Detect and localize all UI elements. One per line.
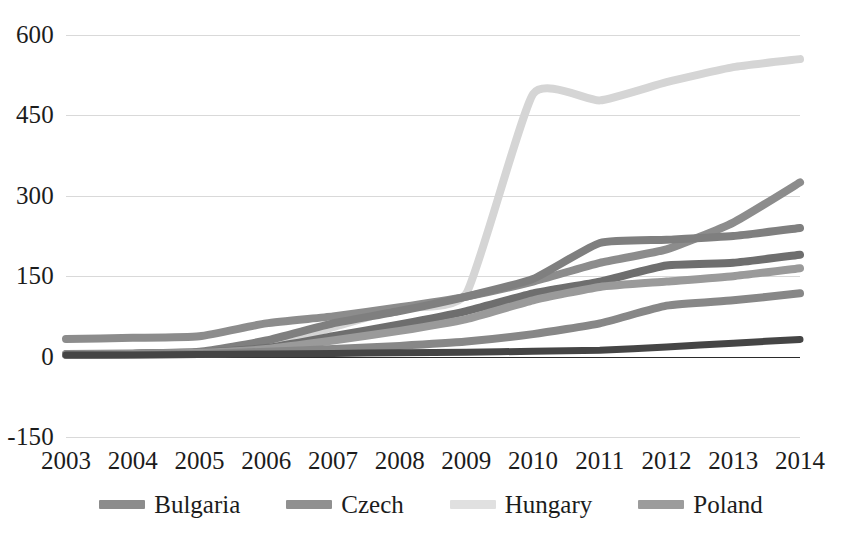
legend-swatch-icon — [99, 500, 145, 509]
x-tick-label: 2011 — [575, 448, 624, 473]
plot-area — [66, 35, 800, 437]
legend-item[interactable]: Poland — [638, 492, 762, 517]
legend-swatch-icon — [286, 500, 332, 509]
legend-swatch-icon — [450, 500, 496, 509]
x-tick-label: 2010 — [508, 448, 558, 473]
x-tick-label: 2013 — [708, 448, 758, 473]
gridline-minus150 — [66, 437, 800, 438]
legend-label: Poland — [693, 492, 762, 517]
line-chart: 600 450 300 150 0 -150 20032004200520062… — [0, 0, 862, 554]
x-tick-label: 2007 — [308, 448, 358, 473]
x-tick-label: 2005 — [174, 448, 224, 473]
legend-item[interactable]: Czech — [286, 492, 403, 517]
y-tick-label: 450 — [0, 102, 54, 127]
y-tick-label: 300 — [0, 183, 54, 208]
x-tick-label: 2006 — [241, 448, 291, 473]
x-tick-label: 2004 — [108, 448, 158, 473]
legend-label: Hungary — [505, 492, 592, 517]
y-tick-label: 150 — [0, 263, 54, 288]
chart-legend: BulgariaCzechHungaryPoland — [0, 492, 862, 517]
legend-swatch-icon — [638, 500, 684, 509]
x-axis-tick-labels: 2003200420052006200720082009201020112012… — [66, 448, 800, 480]
x-tick-label: 2003 — [41, 448, 91, 473]
y-tick-label: 600 — [0, 22, 54, 47]
y-tick-label: 0 — [0, 344, 54, 369]
series-lines — [66, 35, 800, 437]
legend-label: Czech — [341, 492, 403, 517]
x-tick-label: 2012 — [642, 448, 692, 473]
x-tick-label: 2008 — [375, 448, 425, 473]
legend-item[interactable]: Hungary — [450, 492, 592, 517]
y-tick-label: -150 — [0, 424, 54, 449]
series-line — [66, 59, 800, 354]
legend-item[interactable]: Bulgaria — [99, 492, 240, 517]
legend-label: Bulgaria — [154, 492, 240, 517]
x-tick-label: 2009 — [441, 448, 491, 473]
x-tick-label: 2014 — [775, 448, 825, 473]
